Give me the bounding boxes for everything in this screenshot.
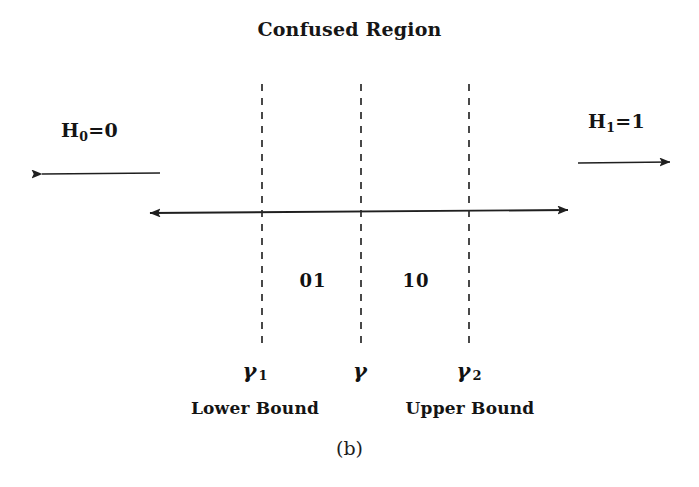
threshold-label-gamma2: γ2 bbox=[414, 358, 524, 383]
gamma1-symbol: γ bbox=[243, 358, 257, 383]
gamma-symbol: γ bbox=[353, 358, 367, 383]
alt-hypothesis-subscript: 1 bbox=[606, 120, 615, 135]
decision-axis bbox=[150, 210, 568, 213]
threshold-label-gamma1: γ1 bbox=[200, 358, 310, 383]
upper-bound-caption: Upper Bound bbox=[390, 398, 550, 418]
region-label-10: 10 bbox=[386, 270, 446, 291]
alt-hypothesis-value: =1 bbox=[615, 110, 645, 132]
subfigure-caption: (b) bbox=[0, 437, 699, 459]
gamma2-subscript: 2 bbox=[472, 368, 481, 383]
null-hypothesis-value: =0 bbox=[88, 119, 118, 141]
lower-bound-caption: Lower Bound bbox=[175, 398, 335, 418]
figure-title: Confused Region bbox=[0, 18, 699, 40]
alt-hypothesis-arrow bbox=[578, 162, 670, 163]
null-hypothesis-arrow bbox=[42, 173, 160, 174]
alt-hypothesis-symbol: H bbox=[588, 110, 606, 132]
gamma2-symbol: γ bbox=[457, 358, 471, 383]
null-hypothesis-label: H0=0 bbox=[61, 119, 118, 144]
confused-region-figure: Confused Region H0=0 H1=1 01 10 γ1 γ γ2 … bbox=[0, 0, 699, 487]
figure-line-art bbox=[0, 0, 699, 487]
threshold-label-gamma: γ bbox=[306, 358, 416, 383]
region-label-01: 01 bbox=[283, 270, 343, 291]
gamma1-subscript: 1 bbox=[258, 368, 267, 383]
null-hypothesis-subscript: 0 bbox=[79, 129, 88, 144]
alt-hypothesis-label: H1=1 bbox=[588, 110, 645, 135]
null-hypothesis-symbol: H bbox=[61, 119, 79, 141]
